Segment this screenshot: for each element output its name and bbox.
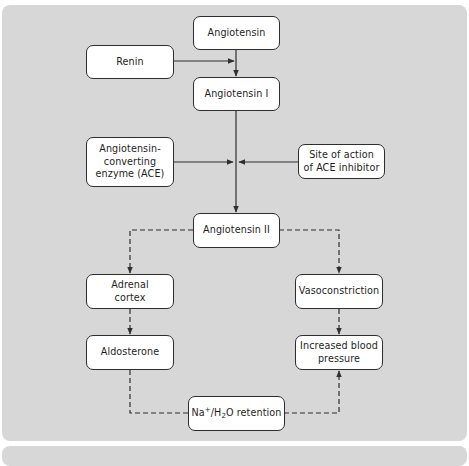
node-label: Vasoconstriction (299, 285, 379, 298)
node-aldosterone: Aldosterone (86, 335, 174, 370)
node-label: Na+/H2O retention (192, 404, 282, 423)
node-adrenal-cortex: Adrenal cortex (86, 274, 174, 309)
node-renin: Renin (86, 45, 174, 79)
node-label-line2: converting (104, 156, 156, 169)
node-label-line1: Adrenal (111, 279, 148, 292)
node-label-line1: Increased blood (300, 340, 378, 353)
node-ace: Angiotensin- converting enzyme (ACE) (86, 137, 174, 187)
node-label: Renin (116, 56, 143, 69)
node-na-h2o-retention: Na+/H2O retention (188, 396, 285, 431)
node-label-line1: Site of action (309, 149, 374, 162)
node-angiotensin-i: Angiotensin I (193, 77, 280, 111)
node-vasoconstriction: Vasoconstriction (295, 274, 383, 309)
node-label-line2: pressure (318, 353, 360, 366)
node-increased-blood-pressure: Increased blood pressure (295, 335, 383, 370)
node-label: Angiotensin (208, 27, 266, 40)
edge-aldosterone-to-na (130, 370, 188, 413)
node-label: Angiotensin II (203, 224, 270, 237)
node-ace-inhibitor-site: Site of action of ACE inhibitor (298, 144, 385, 179)
edge-angiotensin-ii-to-adrenal (130, 230, 193, 273)
node-label-line2: of ACE inhibitor (304, 162, 380, 175)
edge-angiotensin-ii-to-vasoconstriction (279, 230, 339, 273)
node-label: Angiotensin I (205, 88, 269, 101)
node-label-line2: cortex (115, 292, 146, 305)
node-label-line1: Angiotensin- (99, 143, 160, 156)
edge-na-to-bp (284, 371, 339, 413)
node-label: Aldosterone (101, 346, 160, 359)
node-angiotensin: Angiotensin (193, 16, 280, 50)
node-angiotensin-ii: Angiotensin II (193, 213, 280, 248)
node-label-line3: enzyme (ACE) (96, 168, 165, 181)
